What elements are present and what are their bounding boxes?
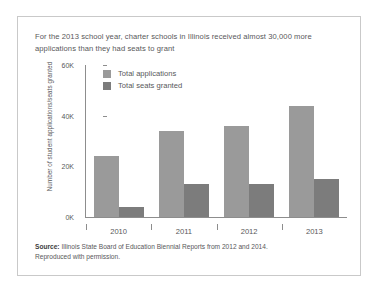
- y-axis-tick-label: 20K: [62, 163, 74, 170]
- bar-2011-applications: [159, 131, 184, 217]
- bar-2012-seats: [249, 184, 274, 217]
- legend-item-seats: Total seats granted: [103, 81, 182, 90]
- source-label: Source:: [35, 243, 60, 250]
- y-axis-tick-label: 60K: [62, 62, 74, 69]
- chart-legend: Total applications Total seats granted: [103, 69, 182, 93]
- y-axis-tick-label: 0K: [65, 214, 74, 221]
- x-axis-tick-label-2011: 2011: [176, 227, 192, 236]
- x-axis-tick-mark: [86, 224, 87, 230]
- x-axis-tick-mark: [217, 224, 218, 230]
- bar-2011-seats: [184, 184, 209, 217]
- bar-2013-seats: [314, 179, 339, 217]
- y-axis-tick-label: 40K: [62, 112, 74, 119]
- x-axis-tick-mark: [151, 224, 152, 230]
- legend-label-seats: Total seats granted: [118, 81, 182, 90]
- bar-2013-applications: [289, 106, 314, 217]
- x-axis-tick-label-2013: 2013: [306, 227, 323, 236]
- source-text: Illinois State Board of Education Bienni…: [60, 243, 268, 250]
- legend-swatch-applications: [103, 70, 111, 78]
- legend-swatch-seats: [103, 82, 111, 90]
- chart-plot-area: Number of student applications/seats gra…: [30, 65, 350, 237]
- figure-frame: For the 2013 school year, charter school…: [17, 16, 361, 276]
- source-note: Source: Illinois State Board of Educatio…: [35, 242, 345, 262]
- legend-item-applications: Total applications: [103, 69, 182, 78]
- figure-caption: For the 2013 school year, charter school…: [35, 31, 345, 54]
- legend-label-applications: Total applications: [118, 69, 176, 78]
- bar-2010-seats: [119, 207, 144, 217]
- y-axis-tick-labels: 0K20K40K60K: [52, 65, 78, 217]
- x-axis-tick-label-2010: 2010: [110, 227, 127, 236]
- source-text-line2: Reproduced with permission.: [35, 253, 120, 260]
- x-axis-line: [85, 217, 347, 218]
- x-axis-tick-label-2012: 2012: [241, 227, 258, 236]
- x-axis-tick-labels: 2010201120122013: [86, 221, 347, 239]
- bar-2010-applications: [94, 156, 119, 217]
- x-axis-tick-mark: [282, 224, 283, 230]
- bar-2012-applications: [224, 126, 249, 217]
